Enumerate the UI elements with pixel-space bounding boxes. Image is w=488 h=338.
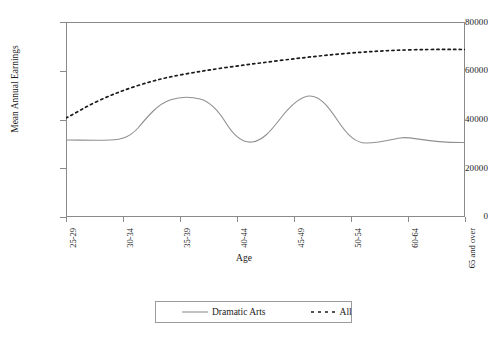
x-tick-mark-45-49 [294,217,295,222]
series-line-dramatic-arts [66,96,465,143]
legend-line-solid-icon [182,308,208,316]
x-tick-label-30-34: 30-34 [126,228,135,248]
x-tick-mark-25-29 [66,217,67,222]
x-tick-mark-65-and-over [465,217,466,222]
x-tick-label-45-49: 45-49 [297,228,306,248]
x-tick-mark-35-39 [180,217,181,222]
legend-item-all: All [310,302,352,322]
x-tick-mark-30-34 [123,217,124,222]
y-axis-title: Mean Annual Earnings [10,29,20,149]
x-tick-label-65-and-over: 65 and over [468,228,477,268]
legend-item-dramatic-arts: Dramatic Arts [182,302,266,322]
x-tick-mark-50-54 [351,217,352,222]
legend-label-dramatic-arts: Dramatic Arts [212,307,266,317]
series-line-all [66,49,465,118]
x-tick-label-60-64: 60-64 [411,228,420,248]
legend-label-all: All [340,307,352,317]
chart-page: 80000 60000 40000 20000 0 Mean Annual Ea… [0,0,488,338]
x-tick-mark-60-64 [408,217,409,222]
x-tick-label-25-29: 25-29 [69,228,78,248]
legend-line-dotted-icon [310,308,336,316]
legend: Dramatic Arts All [155,301,352,323]
x-tick-mark-40-44 [237,217,238,222]
x-tick-label-35-39: 35-39 [183,228,192,248]
x-tick-label-40-44: 40-44 [240,228,249,248]
x-tick-label-50-54: 50-54 [354,228,363,248]
plot-series-layer [66,22,465,217]
x-axis-title: Age [214,253,274,263]
